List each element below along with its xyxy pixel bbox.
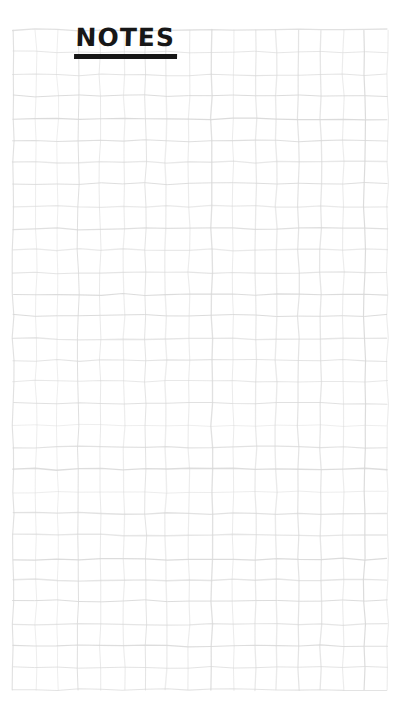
notes-page: NOTES <box>0 0 393 715</box>
grid-paper-background <box>0 0 393 715</box>
page-title: NOTES <box>74 24 178 59</box>
